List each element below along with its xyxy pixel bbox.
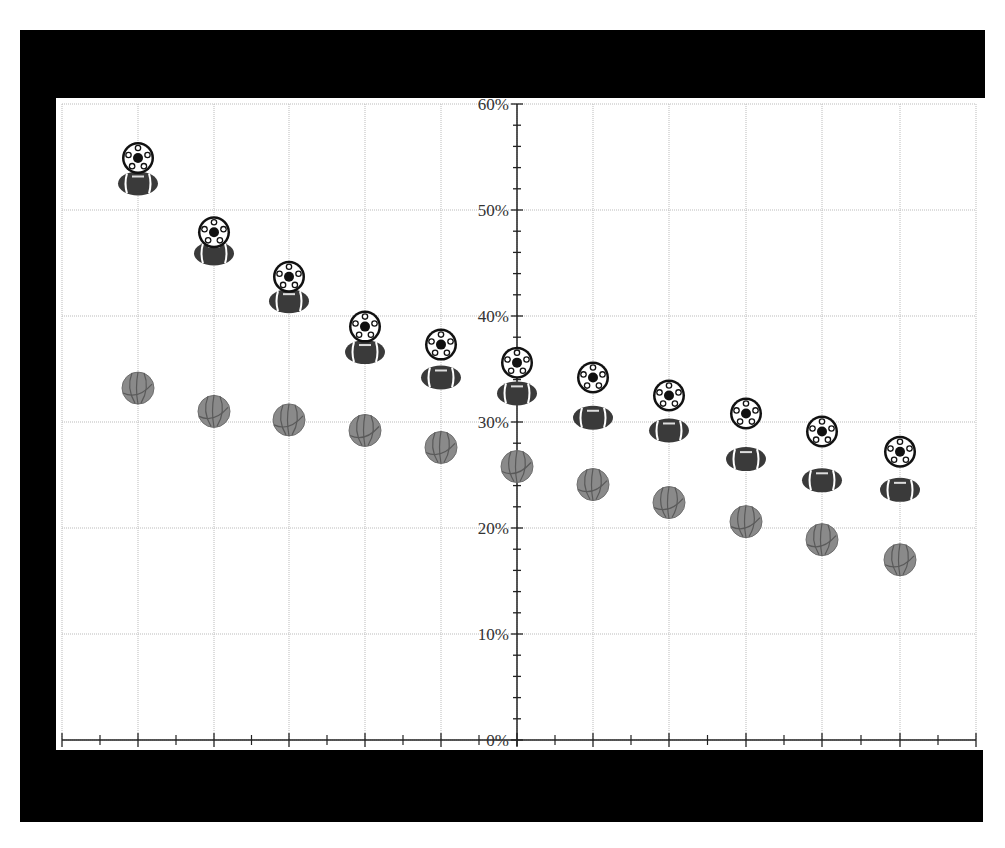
basketball-icon xyxy=(198,395,230,427)
basketball-icon xyxy=(501,451,533,483)
soccer-ball-icon xyxy=(425,329,457,361)
basketball-icon xyxy=(884,544,916,576)
soccer-ball-icon xyxy=(501,347,533,379)
soccer-ball-icon xyxy=(122,142,154,174)
basketball-icon xyxy=(273,404,305,436)
american-football-icon xyxy=(497,381,537,405)
y-tick-label: 10% xyxy=(478,625,509,644)
y-tick-label: 20% xyxy=(478,519,509,538)
soccer-ball-icon xyxy=(577,361,609,393)
y-tick-label: 0% xyxy=(486,731,509,750)
soccer-ball-icon xyxy=(806,416,838,448)
soccer-ball-icon xyxy=(730,398,762,430)
basketball-icon xyxy=(806,524,838,556)
scatter-chart: 0%10%20%30%40%50%60% xyxy=(0,0,1005,848)
basketball-icon xyxy=(122,372,154,404)
basketball-icon xyxy=(577,469,609,501)
american-football-icon xyxy=(802,468,842,492)
american-football-icon xyxy=(118,172,158,196)
soccer-ball-icon xyxy=(653,380,685,412)
american-football-icon xyxy=(421,365,461,389)
y-tick-label: 60% xyxy=(478,95,509,114)
american-football-icon xyxy=(726,447,766,471)
plot-area xyxy=(56,98,985,750)
soccer-ball-icon xyxy=(349,311,381,343)
basketball-icon xyxy=(653,487,685,519)
basketball-icon xyxy=(730,506,762,538)
basketball-icon xyxy=(349,414,381,446)
american-football-icon xyxy=(345,340,385,364)
soccer-ball-icon xyxy=(884,436,916,468)
soccer-ball-icon xyxy=(198,216,230,248)
y-tick-label: 50% xyxy=(478,201,509,220)
soccer-ball-icon xyxy=(273,261,305,293)
american-football-icon xyxy=(880,478,920,502)
y-tick-label: 30% xyxy=(478,413,509,432)
y-tick-label: 40% xyxy=(478,307,509,326)
basketball-icon xyxy=(425,431,457,463)
american-football-icon xyxy=(649,418,689,442)
american-football-icon xyxy=(573,406,613,430)
